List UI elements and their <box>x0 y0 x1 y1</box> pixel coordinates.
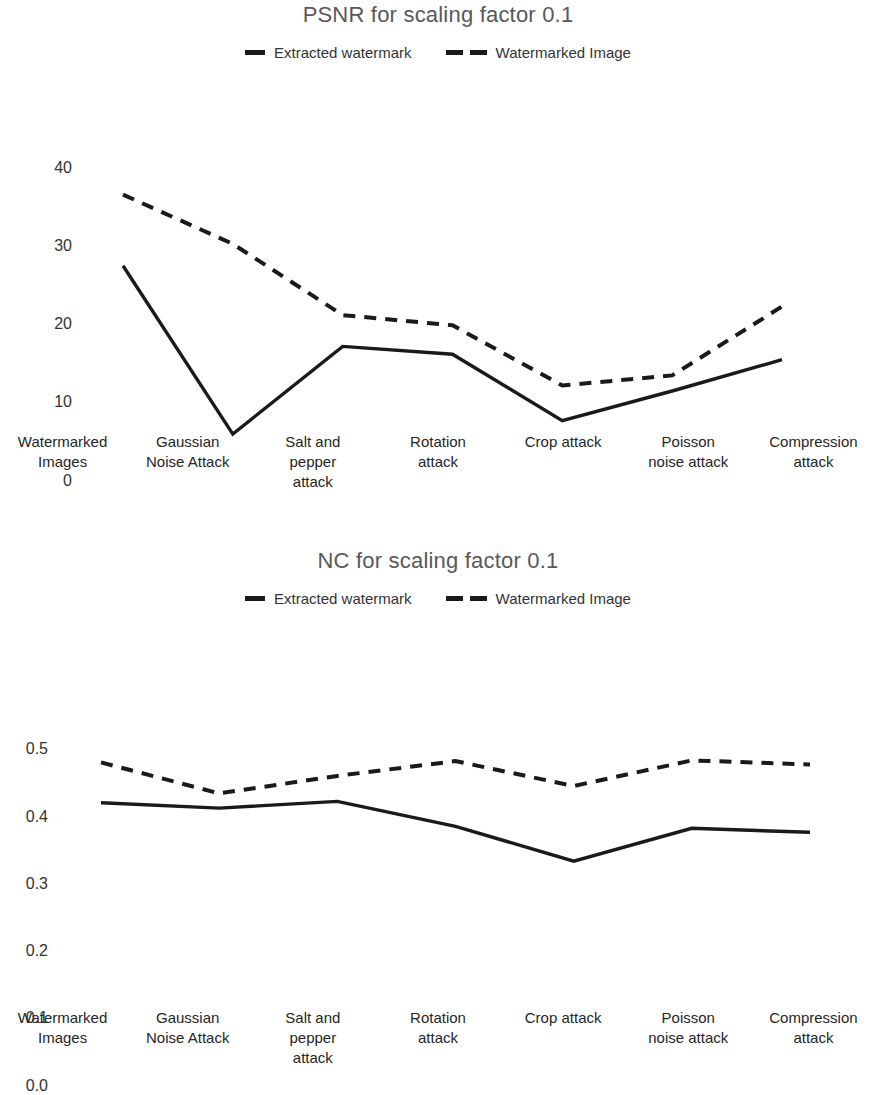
legend-solid-line-icon <box>245 596 265 601</box>
x-axis-label: Watermarked Images <box>0 432 125 492</box>
series-extracted-watermark-line <box>123 266 782 434</box>
x-axis-label: Crop attack <box>501 432 626 492</box>
legend-item-extracted-watermark: Extracted watermark <box>245 590 412 607</box>
nc-x-axis-labels: Watermarked Images Gaussian Noise Attack… <box>0 1008 876 1068</box>
series-extracted-watermark-line <box>101 801 810 861</box>
legend-label: Extracted watermark <box>274 44 412 61</box>
legend-psnr: Extracted watermark Watermarked Image <box>0 44 876 61</box>
x-axis-label: Watermarked Images <box>0 1008 125 1068</box>
legend-item-watermarked-image: Watermarked Image <box>446 590 631 607</box>
legend-dashed-line-icon <box>446 596 487 601</box>
series-watermarked-image-line <box>123 195 782 386</box>
x-axis-label: Compression attack <box>751 432 876 492</box>
legend-item-extracted-watermark: Extracted watermark <box>245 44 412 61</box>
x-axis-label: Poisson noise attack <box>626 432 751 492</box>
legend-label: Extracted watermark <box>274 590 412 607</box>
psnr-x-axis-labels: Watermarked Images Gaussian Noise Attack… <box>0 432 876 492</box>
nc-chart: NC for scaling factor 0.1 Extracted wate… <box>0 520 876 1078</box>
legend-item-watermarked-image: Watermarked Image <box>446 44 631 61</box>
page-title: PSNR for scaling factor 0.1 <box>0 0 876 28</box>
x-axis-label: Compression attack <box>751 1008 876 1068</box>
series-watermarked-image-line <box>101 760 810 793</box>
legend-label: Watermarked Image <box>496 590 631 607</box>
legend-dashed-line-icon <box>446 50 487 55</box>
legend-nc: Extracted watermark Watermarked Image <box>0 590 876 607</box>
x-axis-label: Salt and pepper attack <box>250 432 375 492</box>
x-axis-label: Gaussian Noise Attack <box>125 432 250 492</box>
legend-label: Watermarked Image <box>496 44 631 61</box>
x-axis-label: Poisson noise attack <box>626 1008 751 1068</box>
x-axis-label: Salt and pepper attack <box>250 1008 375 1068</box>
psnr-chart: PSNR for scaling factor 0.1 Extracted wa… <box>0 0 876 520</box>
x-axis-label: Crop attack <box>501 1008 626 1068</box>
legend-solid-line-icon <box>245 50 265 55</box>
x-axis-label: Gaussian Noise Attack <box>125 1008 250 1068</box>
x-axis-label: Rotation attack <box>375 432 500 492</box>
x-axis-label: Rotation attack <box>375 1008 500 1068</box>
page-title: NC for scaling factor 0.1 <box>0 520 876 574</box>
